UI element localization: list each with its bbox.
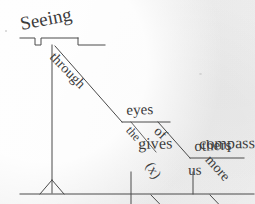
label-eyes: eyes xyxy=(126,102,154,118)
gerund-baseline-right xyxy=(78,38,105,45)
label-compassion: compassion xyxy=(199,135,255,152)
sentence-diagram-canvas: Seeing through eyes the of others gives … xyxy=(0,0,255,204)
modifier-more-slant xyxy=(210,195,253,204)
implied-preposition-slant xyxy=(151,195,183,204)
gerund-step-line xyxy=(20,38,78,45)
label-us: us xyxy=(188,163,202,178)
gerund-stand-right-leg xyxy=(52,180,64,194)
gerund-stand-left-leg xyxy=(40,180,52,194)
label-gives: gives xyxy=(138,135,173,152)
